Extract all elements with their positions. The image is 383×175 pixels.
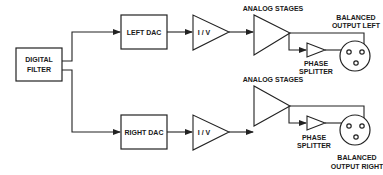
diagram-svg: DIGITAL FILTER LEFT DAC I / V ANALOG STA… [0, 0, 383, 175]
balanced-right-label-2: OUTPUT RIGHT [331, 163, 383, 170]
right-iv-amp: I / V [193, 115, 229, 150]
left-dac-block: LEFT DAC [121, 15, 167, 49]
right-iv-label: I / V [198, 129, 211, 136]
balanced-right-label-1: BALANCED [337, 154, 376, 161]
left-analog-stage-amp [254, 15, 290, 55]
right-analog-stage-amp [254, 86, 290, 126]
digital-filter-label-1: DIGITAL [25, 56, 53, 63]
left-iv-amp: I / V [193, 15, 229, 50]
wire-filter-to-left-dac [62, 32, 120, 61]
digital-filter-label-2: FILTER [27, 66, 51, 73]
balanced-left-label-1: BALANCED [336, 14, 375, 21]
phase-splitter-right-label-2: SPLITTER [297, 142, 331, 149]
wire-filter-to-right-dac [62, 70, 120, 132]
balanced-left-label-2: OUTPUT LEFT [332, 22, 381, 29]
phase-splitter-left-label-1: PHASE [304, 60, 328, 67]
xlr-connector-left [340, 41, 370, 71]
digital-filter-block: DIGITAL FILTER [16, 48, 62, 81]
wire-left-to-splitter [289, 33, 306, 50]
right-phase-splitter [307, 116, 325, 130]
dac-block-diagram: DIGITAL FILTER LEFT DAC I / V ANALOG STA… [0, 0, 383, 175]
phase-splitter-left-label-2: SPLITTER [299, 68, 333, 75]
xlr-connector-right [340, 115, 370, 145]
left-phase-splitter [307, 43, 325, 57]
analog-stages-right-label: ANALOG STAGES [243, 76, 304, 83]
left-dac-label: LEFT DAC [127, 29, 162, 36]
right-dac-block: RIGHT DAC [121, 115, 167, 149]
right-dac-label: RIGHT DAC [125, 129, 164, 136]
analog-stages-left-label: ANALOG STAGES [243, 5, 304, 12]
phase-splitter-right-label-1: PHASE [302, 134, 326, 141]
wire-right-to-splitter [289, 106, 306, 123]
left-iv-label: I / V [198, 29, 211, 36]
